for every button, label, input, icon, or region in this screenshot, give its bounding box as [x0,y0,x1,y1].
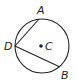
center-point [39,44,43,48]
label-a: A [36,4,45,17]
label-b: B [61,69,69,82]
label-d: D [4,40,12,53]
circle-diagram: A D B C [0,0,77,84]
label-c: C [45,40,53,53]
